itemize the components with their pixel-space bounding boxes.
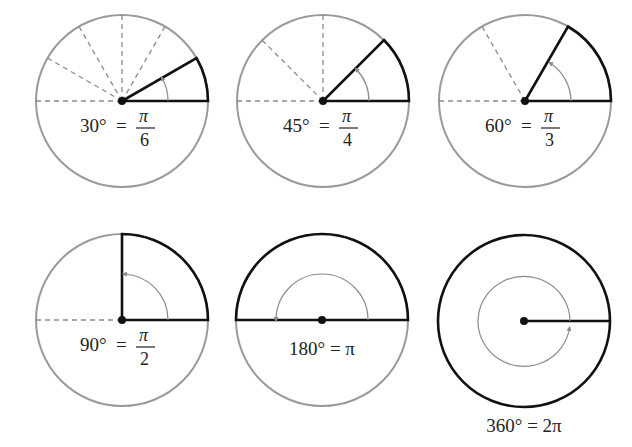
degree-label: 45°: [283, 115, 310, 136]
arc-arrow: [550, 63, 571, 101]
numerator: π: [342, 106, 352, 126]
center-dot: [118, 316, 126, 324]
equals: =: [116, 115, 127, 136]
arc-arrow: [124, 274, 168, 320]
center-dot: [521, 97, 529, 105]
sector: [122, 234, 208, 320]
equals: =: [521, 115, 532, 136]
diagram-60-degrees: 60° = π 3: [439, 15, 611, 187]
center-dot: [118, 97, 126, 105]
angle-label: 180° = π: [289, 338, 355, 359]
diagram-360-degrees: 360° = 2π: [438, 235, 610, 436]
center-dot: [520, 317, 528, 325]
degree-label: 60°: [485, 115, 512, 136]
diagram-90-degrees: 90° = π 2: [36, 234, 208, 406]
diagram-45-degrees: 45° = π 4: [237, 15, 409, 187]
numerator: π: [139, 106, 149, 126]
equals: =: [116, 334, 127, 355]
sector: [525, 27, 611, 102]
dashed-rays: [237, 15, 323, 101]
sector: [236, 234, 408, 320]
arc-arrow: [356, 69, 369, 101]
denominator: 2: [140, 349, 149, 369]
angle-diagrams: 30° = π 6 45° = π 4 60° = π: [0, 0, 632, 447]
degree-label: 30°: [80, 115, 107, 136]
arc-arrow: [162, 78, 168, 101]
degree-label: 90°: [80, 334, 107, 355]
denominator: 6: [140, 130, 149, 150]
equals: =: [319, 115, 330, 136]
sector: [323, 40, 409, 101]
denominator: 4: [343, 130, 352, 150]
denominator: 3: [545, 130, 554, 150]
arc-arrow: [276, 274, 368, 320]
center-dot: [319, 97, 327, 105]
center-dot: [318, 316, 326, 324]
sector: [122, 58, 208, 101]
dashed-rays: [439, 27, 525, 102]
angle-label: 360° = 2π: [486, 415, 562, 436]
numerator: π: [544, 106, 554, 126]
diagram-180-degrees: 180° = π: [236, 234, 408, 406]
numerator: π: [139, 325, 149, 345]
diagram-30-degrees: 30° = π 6: [36, 15, 208, 187]
